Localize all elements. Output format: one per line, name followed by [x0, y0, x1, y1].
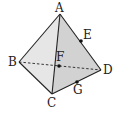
label-a: A [54, 1, 64, 15]
label-b: B [8, 55, 17, 69]
label-e: E [83, 28, 92, 42]
label-d: D [103, 63, 113, 77]
point-f-dot [57, 64, 61, 68]
label-f: F [56, 50, 64, 64]
label-c: C [47, 96, 56, 110]
tetrahedron-figure: A B C D E F G [0, 0, 119, 118]
label-g: G [73, 83, 83, 97]
